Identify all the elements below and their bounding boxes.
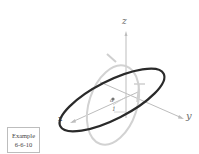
example-label-line2: 6-6-10 [8, 140, 39, 149]
t-mark-left [107, 54, 116, 62]
x-axis-label: x [58, 114, 63, 123]
z-axis-arrow-icon [125, 31, 128, 36]
unit-label: 1 [112, 105, 116, 112]
example-label-box: Example 6-6-10 [7, 127, 40, 153]
center-label: a [110, 96, 114, 103]
example-label-line1: Example [8, 131, 39, 140]
x-axis-arrow-icon [70, 119, 76, 123]
guide-line [113, 97, 126, 105]
y-axis-label: y [186, 110, 192, 121]
z-axis-label: z [122, 16, 127, 26]
y-axis-arrow-icon [178, 115, 184, 119]
